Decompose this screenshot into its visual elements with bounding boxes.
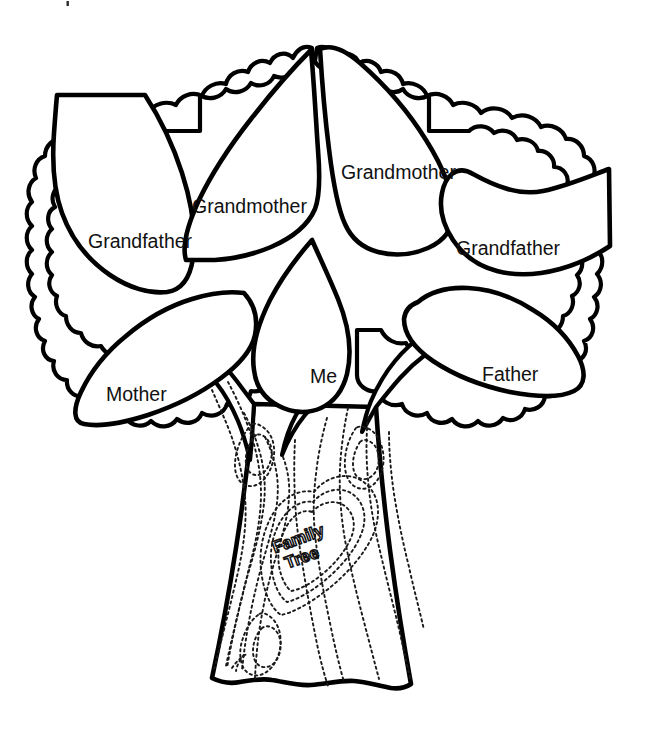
leaf-label-grandfather-left: Grandfather (88, 230, 193, 252)
leaf-label-mother: Mother (106, 383, 167, 405)
leaf-label-me: Me (310, 365, 337, 387)
leaf-label-grandfather-right: Grandfather (456, 237, 561, 259)
leaf-label-father: Father (482, 363, 539, 385)
scan-speck (67, 1, 69, 6)
leaf-label-grandmother-right: Grandmother (341, 161, 456, 183)
coloring-page-canvas: Grandfather Grandmother Grandmother Gran… (0, 0, 663, 739)
leaf-label-grandmother-left: Grandmother (192, 195, 307, 217)
family-tree-illustration: Grandfather Grandmother Grandmother Gran… (0, 0, 663, 739)
